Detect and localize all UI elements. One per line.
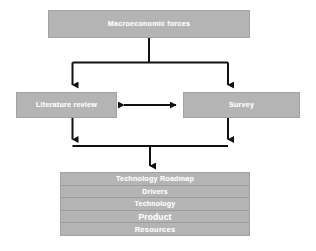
node-macroeconomic-forces-label: Macroeconomic forces	[108, 20, 190, 28]
roadmap-row-label: Product	[138, 212, 171, 222]
node-literature-review-label: Literature review	[36, 101, 97, 109]
technology-roadmap-stack: Technology Roadmap Drivers Technology Pr…	[60, 172, 250, 236]
roadmap-row: Product	[61, 211, 249, 224]
roadmap-row: Resources	[61, 223, 249, 235]
roadmap-row-label: Technology Roadmap	[116, 174, 194, 183]
node-literature-review: Literature review	[16, 92, 117, 118]
roadmap-row: Technology	[61, 198, 249, 211]
roadmap-row-label: Drivers	[142, 188, 168, 195]
flow-diagram: Macroeconomic forces Literature review S…	[0, 0, 316, 251]
roadmap-row-label: Resources	[135, 225, 176, 234]
node-survey: Survey	[183, 92, 300, 118]
node-macroeconomic-forces: Macroeconomic forces	[48, 10, 250, 38]
roadmap-row-label: Technology	[135, 200, 176, 207]
roadmap-row: Technology Roadmap	[61, 173, 249, 186]
node-survey-label: Survey	[229, 101, 254, 109]
roadmap-row: Drivers	[61, 186, 249, 199]
